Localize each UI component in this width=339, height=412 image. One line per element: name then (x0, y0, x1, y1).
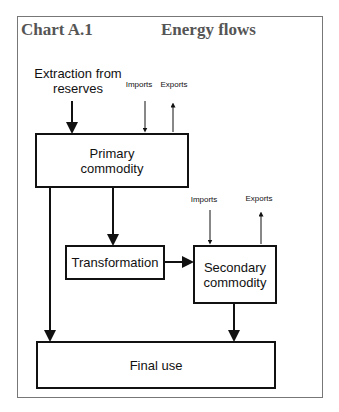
flow-arrows (0, 0, 339, 412)
